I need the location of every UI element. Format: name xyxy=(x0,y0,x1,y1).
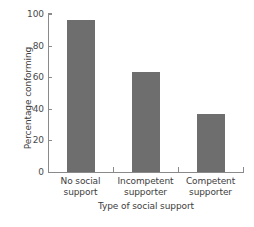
bar xyxy=(67,20,95,172)
x-axis-right-cap xyxy=(243,167,244,173)
x-axis-line xyxy=(48,172,244,173)
bar xyxy=(197,114,225,172)
bar-chart-figure: 020406080100 No socialsupportIncompetent… xyxy=(0,0,254,227)
x-axis-title: Type of social support xyxy=(48,201,244,211)
category-label-line: supporter xyxy=(172,187,249,198)
category-label: Competentsupporter xyxy=(172,176,249,198)
bar xyxy=(132,72,160,172)
plot-area xyxy=(48,14,243,172)
y-axis-title: Percentage conforming xyxy=(23,18,33,178)
category-label-line: Competent xyxy=(172,176,249,187)
